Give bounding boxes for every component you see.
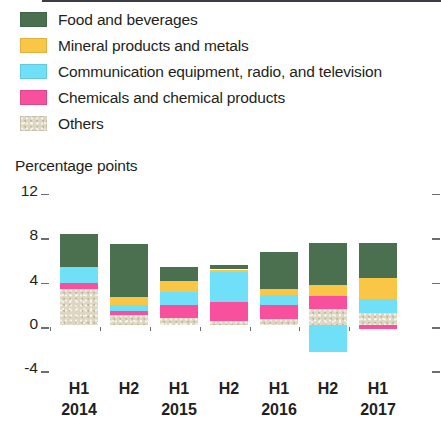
bar-segment-mineral <box>210 270 248 272</box>
y-tick-mark-right-8 <box>432 238 440 240</box>
bar-segment-other <box>260 319 298 325</box>
y-tick-mark-right-0 <box>432 327 440 329</box>
bar-segment-comm <box>359 299 397 312</box>
x-tick-mark <box>100 327 101 331</box>
bar-segment-food <box>210 265 248 269</box>
x-label-year-2017: 2017 <box>348 401 408 419</box>
stacked-bar-chart: 12840-4 H12014H2H12015H2H12016H2H12017 <box>0 0 441 424</box>
x-tick-mark <box>250 327 251 331</box>
bar-segment-other <box>160 318 198 325</box>
y-tick-mark-12 <box>41 194 49 196</box>
bar-segment-mineral <box>309 285 347 296</box>
bar-h1-6[interactable] <box>359 0 397 424</box>
bar-segment-food <box>60 234 98 267</box>
bar-segment-chem <box>60 283 98 290</box>
x-tick-mark <box>349 327 350 331</box>
x-label-half-1: H2 <box>104 380 154 398</box>
x-label-half-2: H1 <box>154 380 204 398</box>
bar-segment-comm <box>309 325 347 352</box>
bar-h1-4[interactable] <box>260 0 298 424</box>
x-label-half-6: H1 <box>353 380 403 398</box>
y-tick-label-0: 0 <box>4 315 38 333</box>
bar-segment-mineral <box>359 278 397 299</box>
bar-segment-comm <box>60 267 98 283</box>
bar-segment-chem <box>110 311 148 315</box>
x-label-half-5: H2 <box>303 380 353 398</box>
bar-segment-comm <box>260 295 298 305</box>
bar-segment-mineral <box>160 281 198 292</box>
bar-h1-2[interactable] <box>160 0 198 424</box>
y-tick-mark-right-neg4 <box>432 371 440 373</box>
x-label-half-0: H1 <box>54 380 104 398</box>
x-label-year-2015: 2015 <box>149 401 209 419</box>
bar-segment-comm <box>160 292 198 305</box>
bar-segment-chem <box>309 296 347 309</box>
bar-segment-comm <box>210 272 248 302</box>
x-tick-mark <box>150 327 151 331</box>
bar-h2-1[interactable] <box>110 0 148 424</box>
bar-segment-chem <box>359 325 397 329</box>
x-tick-mark <box>50 327 51 331</box>
y-tick-label-12: 12 <box>4 182 38 200</box>
x-label-half-3: H2 <box>204 380 254 398</box>
bar-segment-other <box>110 315 148 325</box>
bar-segment-food <box>110 244 148 297</box>
x-label-half-4: H1 <box>254 380 304 398</box>
bar-segment-chem <box>160 305 198 318</box>
y-tick-mark-neg4 <box>41 371 49 373</box>
bar-segment-chem <box>260 305 298 319</box>
bar-segment-mineral <box>110 297 148 305</box>
bar-segment-other <box>210 321 248 325</box>
x-tick-mark <box>299 327 300 331</box>
y-tick-label-4: 4 <box>4 271 38 289</box>
bar-segment-chem <box>210 302 248 321</box>
bar-h1-0[interactable] <box>60 0 98 424</box>
x-tick-mark <box>200 327 201 331</box>
bar-segment-other <box>359 313 397 325</box>
bar-h2-3[interactable] <box>210 0 248 424</box>
bar-segment-food <box>260 252 298 290</box>
y-tick-mark-4 <box>41 283 49 285</box>
y-tick-mark-right-12 <box>432 194 440 196</box>
bar-segment-food <box>160 267 198 280</box>
y-tick-mark-8 <box>41 238 49 240</box>
y-tick-mark-right-4 <box>432 283 440 285</box>
bar-segment-food <box>359 243 397 279</box>
bar-segment-other <box>309 309 347 325</box>
bar-segment-mineral <box>260 289 298 295</box>
bar-h2-5[interactable] <box>309 0 347 424</box>
x-label-year-2016: 2016 <box>249 401 309 419</box>
y-tick-mark-0 <box>41 327 49 329</box>
x-label-year-2014: 2014 <box>49 401 109 419</box>
bar-segment-other <box>60 289 98 325</box>
bar-segment-comm <box>110 305 148 311</box>
y-tick-label-neg4: -4 <box>4 359 38 377</box>
bar-segment-food <box>309 243 347 285</box>
y-tick-label-8: 8 <box>4 226 38 244</box>
